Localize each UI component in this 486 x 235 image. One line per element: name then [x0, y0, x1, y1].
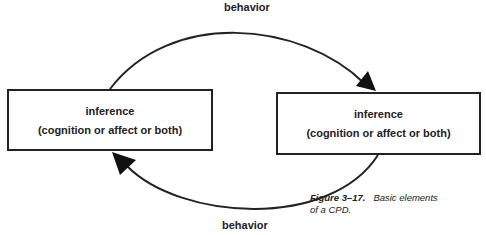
figure-number: Figure 3–17. — [310, 192, 365, 203]
top-arrowhead-icon — [356, 71, 376, 91]
left-box-subtitle: (cognition or affect or both) — [9, 123, 211, 137]
top-behavior-label: behavior — [224, 1, 270, 13]
right-box-subtitle: (cognition or affect or both) — [278, 126, 479, 140]
left-inference-box: inference (cognition or affect or both) — [7, 89, 213, 151]
right-box-title: inference — [278, 107, 479, 121]
figure-caption: Figure 3–17. Basic elements of a CPD. — [310, 192, 438, 216]
left-box-title: inference — [9, 104, 211, 118]
right-inference-box: inference (cognition or affect or both) — [276, 92, 481, 155]
bottom-behavior-label: behavior — [222, 219, 268, 231]
top-arrow-curve — [110, 33, 365, 89]
caption-line1: Basic elements — [373, 192, 437, 203]
caption-line2: of a CPD. — [310, 204, 351, 215]
